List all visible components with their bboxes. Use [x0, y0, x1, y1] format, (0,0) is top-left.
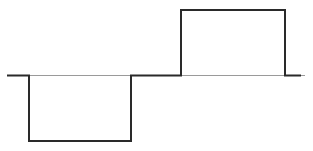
square-wave-diagram — [0, 0, 313, 151]
